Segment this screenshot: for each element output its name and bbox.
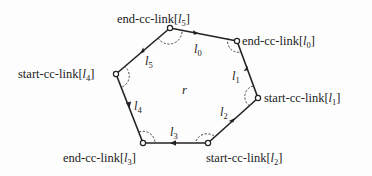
edge-l0 — [170, 28, 237, 41]
angle-arc-v5 — [158, 31, 182, 44]
polygon-diagram: end-cc-link[l5] end-cc-link[l0] start-cc… — [0, 0, 372, 176]
vertex-v3 — [140, 140, 145, 145]
vertex-label-v3: end-cc-link[l3] — [63, 151, 136, 167]
edge-label-l2: l2 — [220, 105, 228, 121]
vertex-label-v4: start-cc-link[l4] — [18, 67, 94, 83]
vertex-v1 — [255, 95, 260, 100]
region-label: r — [182, 83, 187, 97]
vertex-v0 — [234, 38, 239, 43]
arrow-icon-l3 — [170, 140, 176, 146]
vertex-label-v2: start-cc-link[l2] — [206, 151, 282, 167]
edge-label-l5: l5 — [145, 54, 153, 70]
edge-label-l3: l3 — [170, 125, 178, 141]
edge-label-l4: l4 — [134, 99, 142, 115]
vertex-v4 — [113, 71, 118, 76]
angle-arc-v4 — [122, 66, 129, 87]
arrow-icon-l5 — [140, 48, 145, 54]
vertex-label-v5: end-cc-link[l5] — [117, 12, 190, 28]
edge-label-l0: l0 — [194, 42, 202, 58]
arrow-icon-l2 — [229, 118, 235, 122]
vertex-label-v0: end-cc-link[l0] — [242, 34, 315, 50]
edge-label-l1: l1 — [232, 69, 240, 85]
vertex-label-v1: start-cc-link[l1] — [264, 91, 340, 107]
vertex-v5 — [167, 25, 172, 30]
vertex-v2 — [205, 140, 210, 145]
